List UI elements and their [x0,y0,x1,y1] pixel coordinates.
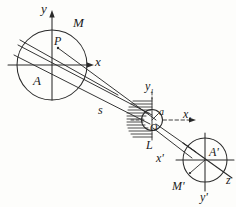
aperture-center-label-O: O [150,123,157,133]
image-point-ray [190,160,205,173]
distance-label-s: s [98,104,103,116]
object-circle-label-A: A [33,74,41,87]
screen-hatching [127,101,152,137]
object-axis-y-arrowhead [49,10,54,18]
diagram-canvas [0,0,236,207]
image-axis-z-label: z [226,174,231,186]
object-axis-x-label: x [95,55,101,68]
image-rim-label-M: M' [172,180,185,192]
ray-from-point-P [58,48,156,120]
optics-diagram-figure: y M P x A s y1 a O L x1 x' A' z M' y' [0,0,236,207]
aperture-axis-y1-sub: 1 [150,87,154,95]
image-circle-label-A: A' [209,146,219,158]
aperture-axis-y1-label: y1 [145,80,154,95]
object-point-label-P: P [54,35,61,47]
image-axis-x-label: x' [156,152,164,164]
aperture-axis-x1-sub: 1 [188,115,192,123]
object-axis-y-label: y [41,2,47,15]
image-point-dot [189,172,191,174]
object-axis-x-arrowhead [87,62,95,67]
aperture-axis-x1-label: x1 [183,108,192,123]
aperture-radius-label-a: a [159,107,164,117]
screen-label-L: L [146,139,153,151]
object-rim-label-M: M [73,16,84,29]
image-axis-y-label: y' [200,191,208,203]
